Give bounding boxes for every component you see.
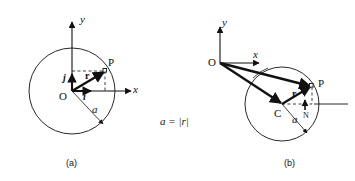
vector-r-label-b: r <box>292 88 297 99</box>
vector-op-b <box>220 63 310 86</box>
figure-root: y x O P r i j a (a) a = |r| <box>0 0 355 181</box>
origin-label-a: O <box>59 90 67 102</box>
point-marker-p-a <box>103 69 107 73</box>
panel-a: y x O P r i j a (a) <box>29 13 138 168</box>
point-p-label-b: P <box>318 77 324 89</box>
x-axis-label-a: x <box>132 83 138 95</box>
unit-vector-i-label-a: i <box>83 91 86 102</box>
point-p-label-a: P <box>108 56 114 68</box>
radius-arrow-a <box>72 91 103 124</box>
vector-oc-b <box>220 63 281 103</box>
unit-vector-j-label-a: j <box>61 72 66 83</box>
x-axis-label-b: x <box>252 48 258 60</box>
figure-canvas: y x O P r i j a (a) a = |r| <box>0 0 355 181</box>
caption-a: (a) <box>66 158 77 168</box>
equation-a-equals-mag-r: a = |r| <box>160 115 189 127</box>
origin-label-b: O <box>208 56 216 68</box>
y-axis-label-a: y <box>79 13 85 25</box>
caption-b: (b) <box>284 158 295 168</box>
center-label-b: C <box>274 107 281 119</box>
radius-label-b: a <box>292 113 298 125</box>
vector-r-label-a: r <box>85 70 90 81</box>
y-axis-label-b: y <box>221 16 227 28</box>
foot-n-label-b: N <box>303 111 309 120</box>
panel-b: y x O C P N r a (b) <box>208 16 348 168</box>
radius-label-a: a <box>92 103 98 115</box>
point-marker-p-b <box>310 84 314 88</box>
